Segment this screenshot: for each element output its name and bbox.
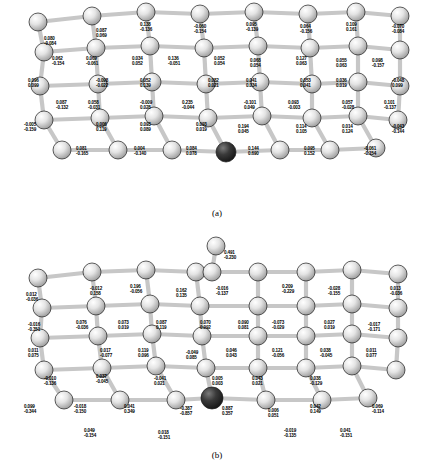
charge-value-bottom: -0.137 [216, 291, 228, 296]
charge-value-bottom: -0.056 [130, 289, 142, 294]
charge-label: 0.1270.063 [296, 56, 307, 66]
charge-label: 0.0530.041 [300, 78, 311, 88]
charge-label: 0.0060.119 [96, 122, 107, 132]
charge-value-bottom: -0.151 [340, 433, 352, 438]
charge-label: 0.095-0.139 [246, 22, 258, 32]
charge-label: -0.005-0.159 [24, 122, 36, 132]
charge-label: 0.1440.690 [248, 146, 259, 156]
charge-value-bottom: -0.061 [86, 61, 98, 66]
charge-value-bottom: 0.099 [28, 83, 39, 88]
charge-value-bottom: -0.077 [100, 353, 112, 358]
charge-value-bottom: 0.161 [346, 27, 357, 32]
charge-value-bottom: -0.154 [364, 151, 376, 156]
charge-label: 0.062-0.154 [52, 56, 64, 66]
charge-value-bottom: -0.031 [88, 105, 100, 110]
charge-value-bottom: -0.028 [342, 105, 354, 110]
charge-label: -0.043-0.144 [392, 124, 404, 134]
charge-label: 0.038-0.129 [310, 376, 322, 386]
charge-value-bottom: 0.028 [140, 105, 152, 110]
charge-value-bottom: -0.136 [140, 27, 152, 32]
charge-value-bottom: -0.135 [284, 433, 296, 438]
charge-value-bottom: 0.158 [90, 291, 102, 296]
charge-label: -0.070-0.084 [392, 24, 404, 34]
charge-label: 0.0900.081 [238, 320, 249, 330]
charge-value-bottom: -0.150 [74, 409, 86, 414]
charge-label: 0.018-0.151 [158, 430, 170, 440]
charge-label: 0.0950.152 [304, 146, 315, 156]
charge-label: 0.041-0.151 [340, 428, 352, 438]
charge-label: 0.209-0.229 [282, 284, 294, 294]
charge-value-bottom: -0.029 [272, 325, 284, 330]
charge-value-bottom: -0.144 [392, 129, 404, 134]
charge-value-bottom: 0.075 [28, 353, 39, 358]
charge-value-bottom: 0.021 [252, 381, 263, 386]
charge-label: 0.0060.051 [268, 408, 279, 418]
charge-value-bottom: -0.140 [134, 151, 146, 156]
charge-label: 0.012-0.036 [26, 292, 38, 302]
charge-label: 0.0110.075 [28, 348, 39, 358]
charge-label: 0.196-0.056 [130, 284, 142, 294]
charge-value-bottom: 0.099 [392, 83, 404, 88]
charge-label: 0.101-0.137 [384, 100, 396, 110]
charge-label: -0.019-0.135 [284, 428, 296, 438]
charge-value-bottom: 0.003 [212, 381, 223, 386]
charge-label: -0.1010.049 [244, 100, 256, 110]
charge-label: 0.0340.052 [132, 56, 143, 66]
charge-label: 0.038-0.045 [320, 348, 332, 358]
charge-value-bottom: 0.021 [208, 83, 219, 88]
charge-value-bottom: -0.157 [372, 63, 384, 68]
charge-label: 0.087-0.132 [56, 100, 68, 110]
charge-value-bottom: 0.078 [186, 151, 197, 156]
charge-label: 0.0110.077 [366, 348, 377, 358]
charge-value-bottom: 0.063 [336, 63, 347, 68]
charge-label: 0.0410.034 [246, 78, 257, 88]
charge-label: 0.0360.019 [336, 78, 347, 88]
caption-b: (b) [0, 450, 434, 460]
charge-label: 0.017-0.077 [100, 348, 112, 358]
charge-value-bottom: -0.084 [44, 41, 56, 46]
charge-value-bottom: 0.051 [268, 413, 279, 418]
charge-label: -0.016-0.137 [216, 286, 228, 296]
charge-value-bottom: 0.152 [304, 151, 315, 156]
charge-value-bottom: 0.135 [176, 293, 187, 298]
charge-label: 0.076-0.036 [76, 320, 88, 330]
charge-label: 0.0520.139 [140, 78, 151, 88]
charge-label: -0.017-0.171 [368, 322, 380, 332]
charge-value-bottom: 0.052 [132, 61, 143, 66]
charge-label: -0.098-0.022 [96, 78, 108, 88]
charge-value-bottom: -0.154 [194, 29, 206, 34]
charge-value-bottom: -0.132 [56, 105, 68, 110]
charge-value-bottom: 0.119 [156, 325, 167, 330]
charge-label: -0.018-0.150 [74, 404, 86, 414]
charge-label: 0.0730.019 [118, 320, 129, 330]
charge-label: -0.060-0.154 [194, 24, 206, 34]
charge-value-bottom: 0.054 [214, 61, 225, 66]
charge-label: 0.1190.096 [138, 348, 149, 358]
charge-value-bottom: -0.045 [96, 379, 108, 384]
charge-value-bottom: 0.349 [124, 409, 135, 414]
charge-value-bottom: 0.034 [246, 83, 257, 88]
charge-label: 0.0820.021 [208, 78, 219, 88]
charge-value-bottom: 0.043 [226, 353, 237, 358]
charge-label: -0.0490.085 [186, 350, 198, 360]
charge-value-bottom: -0.171 [368, 327, 380, 332]
charge-value-bottom: -0.056 [272, 353, 284, 358]
charge-value-bottom: 0.041 [300, 83, 311, 88]
charge-value-bottom: -0.137 [384, 105, 396, 110]
charge-value-bottom: 0.119 [96, 127, 107, 132]
charge-label: 0.1140.105 [296, 124, 307, 134]
charge-label: 0.064-0.156 [300, 24, 312, 34]
charge-label: 0.0930.019 [196, 122, 207, 132]
charge-value-bottom: -0.154 [84, 433, 96, 438]
charge-value-bottom: -0.003 [288, 105, 300, 110]
charge-value-bottom: -0.036 [26, 297, 38, 302]
charge-label: -0.073-0.029 [272, 320, 284, 330]
charge-value-bottom: 0.019 [324, 325, 335, 330]
charge-value-bottom: -0.155 [328, 291, 340, 296]
charge-value-bottom: -0.022 [96, 83, 108, 88]
charge-label: 0.1090.161 [346, 22, 357, 32]
charge-value-bottom: -0.051 [168, 61, 180, 66]
charge-value-bottom: 0.690 [248, 151, 259, 156]
charge-label: 0.121-0.056 [272, 348, 284, 358]
charge-value-bottom: 0.049 [244, 105, 256, 110]
